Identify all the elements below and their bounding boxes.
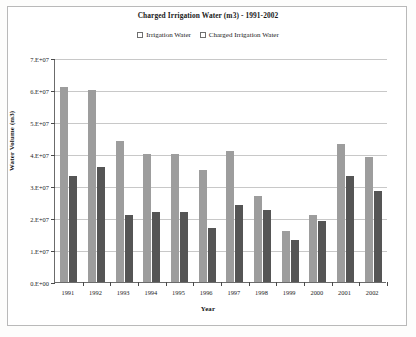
chart-page: Charged Irrigation Water (m3) - 1991-200… bbox=[0, 0, 416, 337]
x-axis-tick-label: 1991 bbox=[61, 289, 74, 296]
bar bbox=[282, 231, 290, 282]
bar bbox=[291, 240, 299, 282]
x-axis-tick bbox=[332, 282, 333, 286]
bar-group bbox=[193, 170, 221, 282]
bar bbox=[235, 205, 243, 282]
bar bbox=[116, 141, 124, 282]
y-axis-tick-label: 0.E+00 bbox=[30, 280, 49, 287]
legend-swatch-icon bbox=[137, 32, 143, 38]
bar bbox=[208, 228, 216, 282]
chart-legend: Irrigation Water Charged Irrigation Wate… bbox=[0, 31, 416, 39]
x-axis-tick bbox=[166, 282, 167, 286]
bar-group bbox=[110, 141, 138, 282]
bar-group bbox=[55, 87, 83, 282]
x-axis-tick-label: 1994 bbox=[144, 289, 157, 296]
x-axis-tick bbox=[110, 282, 111, 286]
bar bbox=[143, 154, 151, 282]
bar-group bbox=[249, 196, 277, 282]
y-axis-tick-label: 5.E+07 bbox=[30, 120, 49, 127]
bar bbox=[180, 212, 188, 282]
bar-group bbox=[332, 144, 360, 282]
x-axis-tick-label: 1992 bbox=[89, 289, 102, 296]
y-axis-tick bbox=[51, 283, 55, 284]
bar bbox=[318, 221, 326, 282]
x-axis-tick-label: 1993 bbox=[117, 289, 130, 296]
bar-group bbox=[83, 90, 111, 282]
x-axis-tick-label: 1998 bbox=[255, 289, 268, 296]
x-axis-tick bbox=[193, 282, 194, 286]
x-axis-tick-label: 1996 bbox=[200, 289, 213, 296]
bar bbox=[374, 191, 382, 282]
bar bbox=[226, 151, 234, 282]
y-axis-tick-label: 6.E+07 bbox=[30, 88, 49, 95]
legend-item-charged-irrigation-water: Charged Irrigation Water bbox=[200, 31, 279, 39]
bar-group bbox=[221, 151, 249, 282]
x-axis-tick bbox=[83, 282, 84, 286]
x-axis-tick bbox=[276, 282, 277, 286]
plot-top-rule bbox=[55, 59, 387, 60]
legend-label: Irrigation Water bbox=[146, 31, 191, 39]
chart-title: Charged Irrigation Water (m3) - 1991-200… bbox=[0, 11, 416, 20]
x-axis-tick-label: 1999 bbox=[283, 289, 296, 296]
bar-group bbox=[304, 215, 332, 282]
plot-area: 0.E+001.E+072.E+073.E+074.E+075.E+076.E+… bbox=[54, 59, 386, 283]
y-axis-title: Water Volume (m3) bbox=[8, 111, 15, 171]
x-axis-tick bbox=[387, 282, 388, 286]
x-axis-title: Year bbox=[0, 305, 416, 312]
bar bbox=[346, 176, 354, 282]
bar bbox=[337, 144, 345, 282]
y-axis-tick-label: 7.E+07 bbox=[30, 56, 49, 63]
legend-swatch-icon bbox=[200, 32, 206, 38]
x-axis-tick-label: 2001 bbox=[338, 289, 351, 296]
bar bbox=[125, 215, 133, 282]
bar bbox=[309, 215, 317, 282]
bar-group bbox=[359, 157, 387, 282]
bar bbox=[171, 154, 179, 282]
y-axis-tick-label: 2.E+07 bbox=[30, 216, 49, 223]
y-axis-tick-label: 3.E+07 bbox=[30, 184, 49, 191]
legend-item-irrigation-water: Irrigation Water bbox=[137, 31, 191, 39]
bar-group bbox=[138, 154, 166, 282]
bar bbox=[199, 170, 207, 282]
bar-group bbox=[276, 231, 304, 282]
x-axis-tick bbox=[221, 282, 222, 286]
x-axis-tick bbox=[359, 282, 360, 286]
bar bbox=[69, 176, 77, 282]
bar bbox=[263, 210, 271, 282]
x-axis-tick-label: 2000 bbox=[310, 289, 323, 296]
bar bbox=[254, 196, 262, 282]
x-axis-tick bbox=[249, 282, 250, 286]
bar-group bbox=[166, 154, 194, 282]
bar bbox=[60, 87, 68, 282]
bar bbox=[88, 90, 96, 282]
y-axis-tick-label: 4.E+07 bbox=[30, 152, 49, 159]
x-axis-tick bbox=[138, 282, 139, 286]
x-axis-tick-label: 1997 bbox=[227, 289, 240, 296]
bar bbox=[97, 167, 105, 282]
legend-label: Charged Irrigation Water bbox=[209, 31, 279, 39]
y-axis-tick bbox=[51, 59, 55, 60]
bar bbox=[365, 157, 373, 282]
x-axis-tick-label: 2002 bbox=[366, 289, 379, 296]
bar bbox=[152, 212, 160, 282]
y-axis-tick-label: 1.E+07 bbox=[30, 248, 49, 255]
x-axis-tick bbox=[304, 282, 305, 286]
x-axis-tick-label: 1995 bbox=[172, 289, 185, 296]
